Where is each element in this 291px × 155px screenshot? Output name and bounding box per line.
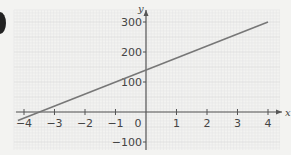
x-tick-label: −4 — [16, 117, 32, 130]
x-axis-arrow-icon — [276, 110, 282, 115]
y-tick-label: 300 — [121, 16, 142, 29]
x-axis-label: x — [285, 107, 291, 118]
x-tick-label: −2 — [77, 117, 93, 130]
x-tick-label: 2 — [204, 117, 211, 130]
line-chart: xy−4−3−2−101234300200100−100 — [0, 0, 291, 155]
x-tick-label: −1 — [107, 117, 123, 130]
y-tick-label: 200 — [121, 46, 142, 59]
x-tick-label: 1 — [173, 117, 180, 130]
y-tick-label: −100 — [112, 136, 142, 149]
x-tick-label: −3 — [46, 117, 62, 130]
y-axis-label: y — [137, 3, 144, 14]
x-tick-label: 3 — [234, 117, 241, 130]
x-tick-label: 0 — [135, 117, 142, 130]
x-tick-label: 4 — [265, 117, 272, 130]
